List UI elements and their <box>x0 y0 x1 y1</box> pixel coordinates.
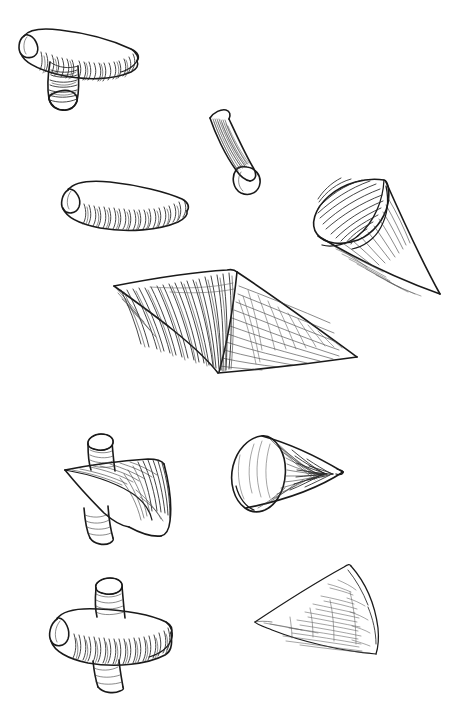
paper-background <box>0 0 472 714</box>
sketch-canvas <box>0 0 472 714</box>
sketch-sheet <box>0 0 472 714</box>
